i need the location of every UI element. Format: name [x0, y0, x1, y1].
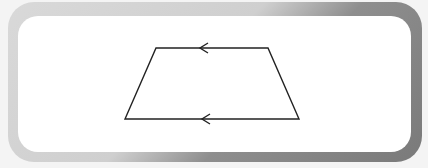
trapezoid-shape — [125, 48, 299, 119]
trapezoid-diagram — [0, 0, 428, 168]
